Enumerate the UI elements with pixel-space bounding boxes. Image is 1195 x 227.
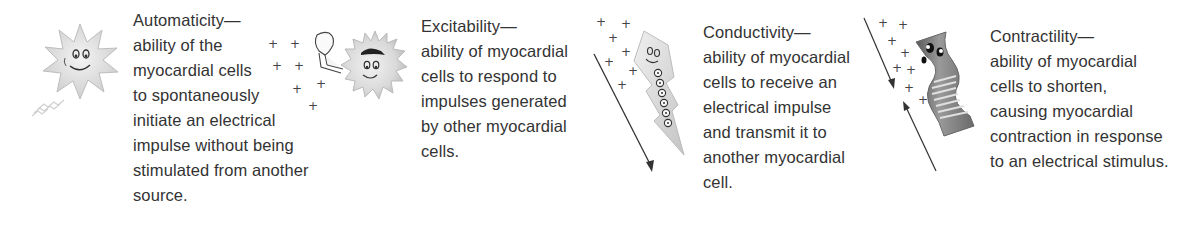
property-line: and transmit it to (703, 120, 850, 145)
property-line: myocardial cells (133, 58, 309, 83)
plus-sign-icon: + (294, 60, 304, 72)
property-line: to an electrical stimulus. (990, 149, 1169, 174)
property-line: source. (133, 183, 309, 208)
property-line: by other myocardial (421, 114, 568, 139)
property-line: impulses generated (421, 89, 568, 114)
property-line: ability of myocardial (421, 39, 568, 64)
lightning-bolt-cell-icon (632, 25, 694, 160)
property-contractility: Contractility— ability of myocardial cel… (990, 24, 1169, 174)
property-line: impulse without being (133, 133, 309, 158)
property-line: cells to respond to (421, 64, 568, 89)
property-line: ability of myocardial (990, 49, 1169, 74)
property-line: ability of the (133, 33, 309, 58)
property-line: cells to shorten, (990, 74, 1169, 99)
waving-cell-icon (305, 25, 410, 110)
motion-lines-icon (30, 95, 70, 117)
property-title: Contractility— (990, 24, 1169, 49)
property-line: another myocardial (703, 145, 850, 170)
property-line: cells. (421, 139, 568, 164)
property-title: Automaticity— (133, 8, 309, 33)
property-conductivity: Conductivity— ability of myocardial cell… (703, 20, 850, 195)
property-line: contraction in response (990, 124, 1169, 149)
plus-sign-icon: + (608, 32, 618, 44)
property-title: Excitability— (421, 14, 568, 39)
property-title: Conductivity— (703, 20, 850, 45)
plus-sign-icon: + (292, 83, 302, 95)
plus-sign-icon: + (290, 38, 300, 50)
property-line: cells to receive an (703, 70, 850, 95)
plus-sign-icon: + (621, 18, 631, 30)
property-line: cell. (703, 170, 850, 195)
plus-sign-icon: + (596, 16, 606, 28)
property-line: initiate an electrical (133, 108, 309, 133)
property-line: to spontaneously (133, 83, 309, 108)
smiling-star-cell-icon (40, 22, 120, 102)
property-line: stimulated from another (133, 158, 309, 183)
plus-sign-icon: + (272, 60, 282, 72)
property-line: causing myocardial (990, 99, 1169, 124)
property-excitability: Excitability— ability of myocardial cell… (421, 14, 568, 164)
property-line: electrical impulse (703, 95, 850, 120)
property-automaticity: Automaticity— ability of the myocardial … (133, 8, 309, 208)
contracting-muscle-cell-icon (912, 30, 982, 140)
plus-sign-icon: + (268, 38, 278, 50)
property-line: ability of myocardial (703, 45, 850, 70)
